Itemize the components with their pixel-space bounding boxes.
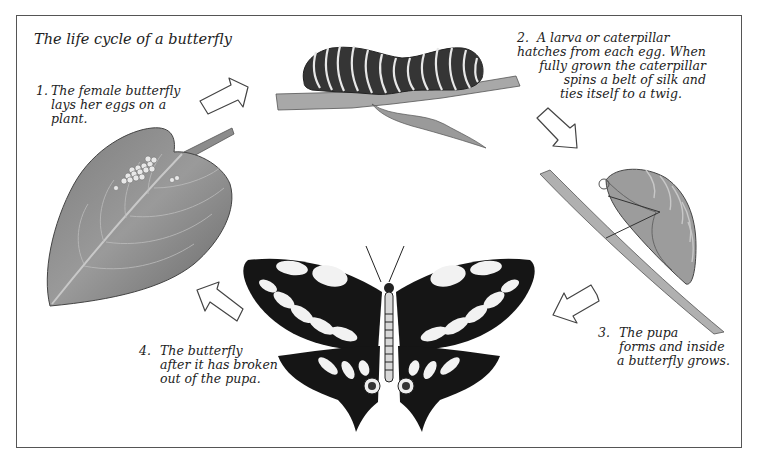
step-3-line: forms and inside — [619, 340, 730, 354]
pupa-on-twig-illustration — [536, 166, 726, 336]
step-1-line: lays her eggs on a — [51, 98, 180, 112]
arrow-1-to-2-icon — [198, 76, 250, 116]
step-2-line: ties itself to a twig. — [517, 87, 706, 101]
step-4-number: 4. — [139, 344, 151, 358]
step-3-line: a butterfly grows. — [617, 354, 730, 368]
leaf-with-eggs-illustration — [44, 124, 236, 310]
step-2-line: fully grown the caterpillar — [517, 59, 706, 73]
step-2-line: spins a belt of silk and — [517, 73, 706, 87]
step-2-line: hatches from each egg. When — [517, 45, 706, 59]
caterpillar-on-twig-illustration — [272, 38, 522, 153]
step-1-number: 1. — [36, 84, 48, 98]
swallowtail-butterfly-illustration — [238, 242, 540, 434]
arrow-2-to-3-icon — [535, 106, 581, 150]
step-1-line: The female butterfly — [51, 84, 180, 98]
step-2-line: A larva or caterpillar — [537, 30, 670, 45]
step-2-caption: 2. A larva or caterpillar hatches from e… — [517, 31, 706, 101]
step-1-caption: 1. The female butterfly lays her eggs on… — [36, 84, 180, 126]
diagram-title: The life cycle of a butterfly — [34, 32, 232, 46]
